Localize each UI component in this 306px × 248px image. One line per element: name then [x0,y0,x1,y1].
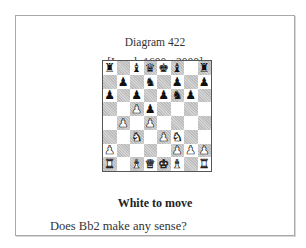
white-pawn-icon: ♟ [199,144,210,156]
square-d6 [144,89,158,103]
black-bishop-icon: ♝ [172,62,183,74]
black-pawn-icon: ♟ [118,76,129,88]
white-rook-icon: ♜ [104,158,115,170]
black-pawn-icon: ♟ [185,89,196,101]
black-bishop-icon: ♝ [131,62,142,74]
white-pawn-icon: ♟ [185,144,196,156]
black-pawn-icon: ♟ [172,76,183,88]
square-e5 [157,102,171,116]
question-text: Does Bb2 make any sense? [50,219,187,234]
square-d2 [144,144,158,158]
square-e1: ♚ [157,157,171,171]
square-b4: ♟ [117,116,131,130]
square-e3: ♟ [157,130,171,144]
square-c6: ♟ [130,89,144,103]
square-a1: ♜ [103,157,117,171]
white-bishop-icon: ♝ [131,158,142,170]
white-rook-icon: ♜ [199,158,210,170]
square-h6 [198,89,212,103]
square-f7: ♟ [171,75,185,89]
square-h3 [198,130,212,144]
square-a3 [103,130,117,144]
square-f2: ♟ [171,144,185,158]
square-g5 [184,102,198,116]
square-c2 [130,144,144,158]
square-c7 [130,75,144,89]
square-c5: ♟ [130,102,144,116]
black-queen-icon: ♛ [145,62,156,74]
square-h5 [198,102,212,116]
chess-board: ♜♝♛♚♝♜♟♞♟♟♟♟♟♞♟♟♟♟♟♞♟♞♟♟♟♟♜♝♛♚♝♜ [102,60,212,172]
square-f5 [171,102,185,116]
white-pawn-icon: ♟ [172,144,183,156]
white-knight-icon: ♞ [131,131,142,143]
square-g3 [184,130,198,144]
square-f8: ♝ [171,61,185,75]
square-e6: ♟ [157,89,171,103]
square-g1 [184,157,198,171]
black-knight-icon: ♞ [145,76,156,88]
square-a7 [103,75,117,89]
diagram-title: Diagram 422 [16,36,294,48]
square-b3 [117,130,131,144]
square-h7: ♟ [198,75,212,89]
square-g4 [184,116,198,130]
square-d7: ♞ [144,75,158,89]
side-to-move: White to move [16,196,294,211]
black-pawn-icon: ♟ [158,89,169,101]
square-h2: ♟ [198,144,212,158]
square-b5 [117,102,131,116]
square-c1: ♝ [130,157,144,171]
square-b6 [117,89,131,103]
square-d1: ♛ [144,157,158,171]
white-pawn-icon: ♟ [104,144,115,156]
black-rook-icon: ♜ [104,62,115,74]
square-b8 [117,61,131,75]
square-a6: ♟ [103,89,117,103]
square-f6: ♞ [171,89,185,103]
black-pawn-icon: ♟ [145,103,156,115]
white-queen-icon: ♛ [145,158,156,170]
square-b1 [117,157,131,171]
black-pawn-icon: ♟ [199,76,210,88]
black-pawn-icon: ♟ [131,89,142,101]
white-bishop-icon: ♝ [172,158,183,170]
square-d5: ♟ [144,102,158,116]
square-g8 [184,61,198,75]
black-knight-icon: ♞ [172,89,183,101]
square-e4 [157,116,171,130]
square-g6: ♟ [184,89,198,103]
square-f3: ♞ [171,130,185,144]
square-c3: ♞ [130,130,144,144]
square-e8: ♚ [157,61,171,75]
square-b2 [117,144,131,158]
square-h1: ♜ [198,157,212,171]
square-f1: ♝ [171,157,185,171]
square-h8: ♜ [198,61,212,75]
square-e7 [157,75,171,89]
square-c8: ♝ [130,61,144,75]
black-king-icon: ♚ [158,62,169,74]
square-a2: ♟ [103,144,117,158]
square-a8: ♜ [103,61,117,75]
square-d4: ♟ [144,116,158,130]
white-king-icon: ♚ [158,158,169,170]
white-knight-icon: ♞ [172,131,183,143]
white-pawn-icon: ♟ [131,103,142,115]
square-a5 [103,102,117,116]
square-e2 [157,144,171,158]
white-pawn-icon: ♟ [158,131,169,143]
white-pawn-icon: ♟ [145,117,156,129]
square-h4 [198,116,212,130]
black-rook-icon: ♜ [199,62,210,74]
square-f4 [171,116,185,130]
white-pawn-icon: ♟ [118,117,129,129]
square-g2: ♟ [184,144,198,158]
square-c4 [130,116,144,130]
square-g7 [184,75,198,89]
square-d3 [144,130,158,144]
square-a4 [103,116,117,130]
square-b7: ♟ [117,75,131,89]
square-d8: ♛ [144,61,158,75]
black-pawn-icon: ♟ [104,89,115,101]
